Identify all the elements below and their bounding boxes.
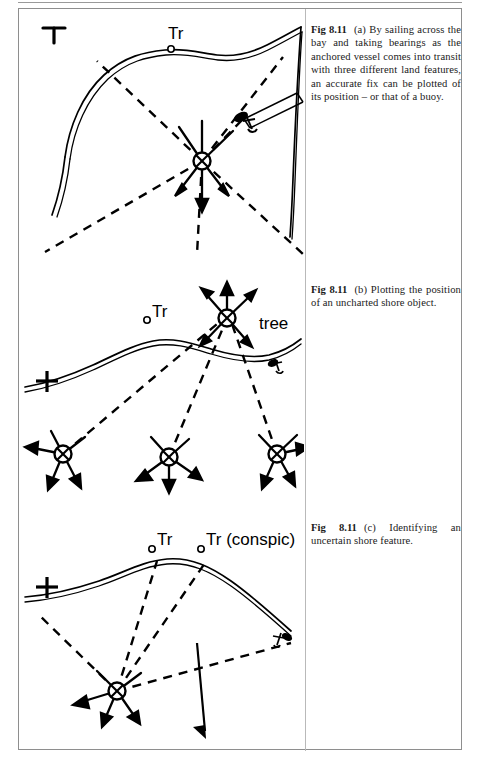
uncertain-bearing-arrowhead xyxy=(193,725,206,739)
svg-text:Tr (conspic): Tr (conspic) xyxy=(206,530,295,549)
caption-c-label: Fig 8.11 xyxy=(311,522,357,533)
tower-label-b: Tr xyxy=(144,302,168,323)
figure-a: Tr Fig 8.11(a) By sailing across the bay… xyxy=(19,9,461,271)
caption-a-label: Fig 8.11 xyxy=(311,24,347,35)
coastline-inner-c xyxy=(25,564,291,636)
fix-symbol-a xyxy=(194,153,211,170)
caption-a: Fig 8.11(a) By sailing across the bay an… xyxy=(311,23,461,103)
svg-text:Tr: Tr xyxy=(152,302,168,321)
tower-label-a: Tr xyxy=(168,24,184,52)
figure-page: Tr Fig 8.11(a) By sailing across the bay… xyxy=(0,0,479,766)
page-top-rule xyxy=(18,2,462,3)
vessel-fix-2 xyxy=(136,437,202,493)
coastline-outer-c xyxy=(25,559,291,631)
caption-b-label: Fig 8.11 xyxy=(311,284,347,295)
svg-text:Tr: Tr xyxy=(157,530,173,549)
vessel-fix-3 xyxy=(259,435,304,489)
tree-fix-symbol xyxy=(200,282,256,347)
vessel-fix-1 xyxy=(25,431,85,490)
coastline-right-tail xyxy=(290,27,301,237)
figure-b: tree Tr xyxy=(19,271,461,503)
coastline-inner-b xyxy=(25,344,301,392)
caption-b: Fig 8.11(b) Plotting the position of an … xyxy=(311,283,461,310)
coastline-outer-b xyxy=(25,339,301,387)
figure-c: Tr Tr (conspic) xyxy=(19,503,461,749)
uncertain-bearing-line xyxy=(197,643,205,731)
caption-c-part: (c) xyxy=(364,522,376,533)
caption-a-part: (a) xyxy=(354,24,366,35)
tower-label-c: Tr xyxy=(149,530,173,552)
shore-vessel-icon-c xyxy=(273,631,293,647)
tree-label: tree xyxy=(259,314,288,333)
bearing-lines-a xyxy=(45,57,303,254)
coastline-right-tail-inner xyxy=(292,32,302,239)
coastline-left-tail xyxy=(52,157,65,215)
figure-b-artwork: tree Tr xyxy=(19,271,304,503)
caption-a-text: By sailing across the bay and taking bea… xyxy=(311,24,461,102)
church-cross-icon xyxy=(43,28,65,43)
tower-conspic-label-c: Tr (conspic) xyxy=(198,530,295,552)
bearing-lines-c xyxy=(39,561,291,691)
fix-symbol-c xyxy=(73,671,141,727)
column-divider xyxy=(305,9,306,751)
figure-a-artwork: Tr xyxy=(19,9,304,271)
caption-b-part: (b) xyxy=(354,284,367,295)
caption-c: Fig 8.11(c) Identifying an uncertain sho… xyxy=(311,521,461,548)
coastline-outer xyxy=(65,27,301,157)
anchored-vessel-icon xyxy=(232,93,303,132)
figure-c-artwork: Tr Tr (conspic) xyxy=(19,503,304,749)
svg-text:Tr: Tr xyxy=(168,24,184,43)
